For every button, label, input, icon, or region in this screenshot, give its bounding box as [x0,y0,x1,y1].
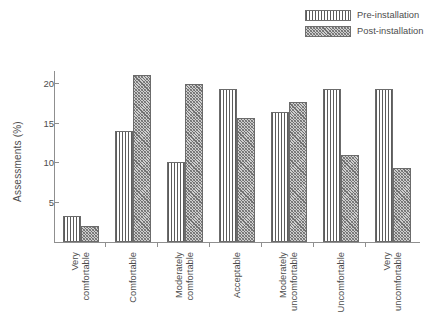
y-tick-mark [55,162,59,163]
x-tick-mark [209,243,210,247]
x-tick-mark [313,243,314,247]
x-axis-label-6: Veryuncomfortable [382,252,403,330]
bar-post-installation-0 [81,226,99,242]
bar-post-installation-6 [393,168,411,242]
y-tick-label: 5 [34,197,54,208]
x-axis-label-1: Comfortable [128,252,139,330]
y-axis-line [54,71,55,243]
x-tick-mark [105,243,106,247]
y-tick-label: 10 [34,157,54,168]
bar-pre-installation-2 [167,162,185,242]
y-tick-label: 15 [34,117,54,128]
bar-post-installation-1 [133,75,151,242]
x-tick-mark [157,243,158,247]
x-axis-label-4: Moderatelyuncomfortable [278,252,299,330]
bar-pre-installation-1 [115,131,133,242]
y-tick-label-wrap: 10 [30,162,54,163]
bar-pre-installation-4 [271,112,289,242]
x-axis-label-5: Uncomfortable [336,252,347,330]
y-axis-title: Assessments (%) [12,102,23,222]
y-tick-mark [55,202,59,203]
bar-pre-installation-5 [323,89,341,242]
bar-post-installation-4 [289,102,307,242]
y-tick-label-wrap: 20 [30,83,54,84]
y-tick-label-wrap: 5 [30,202,54,203]
y-tick-mark [55,83,59,84]
bar-post-installation-3 [237,118,255,242]
y-tick-label-wrap: 15 [30,123,54,124]
bar-chart: Assessments (%) 5101520 VerycomfortableC… [0,0,441,335]
x-axis-label-3: Acceptable [232,252,243,330]
bar-pre-installation-0 [63,216,81,242]
bar-post-installation-2 [185,84,203,242]
y-tick-label: 20 [34,77,54,88]
x-axis-label-2: Moderatelycomfortable [174,252,195,330]
y-tick-mark [55,123,59,124]
x-axis-label-0: Verycomfortable [70,252,91,330]
x-tick-mark [365,243,366,247]
x-tick-mark [261,243,262,247]
bar-pre-installation-6 [375,89,393,242]
bar-post-installation-5 [341,155,359,242]
bar-pre-installation-3 [219,89,237,242]
